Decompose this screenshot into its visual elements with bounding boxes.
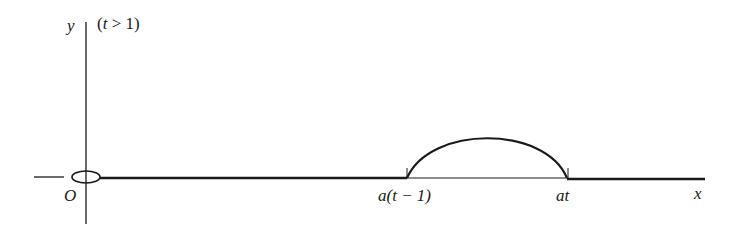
pulse-arc [407, 138, 567, 178]
condition-label: (t > 1) [97, 14, 140, 34]
point-left-label: a(t − 1) [378, 186, 431, 206]
y-axis-label: y [67, 16, 75, 36]
x-axis-label: x [694, 184, 702, 204]
point-right-label: at [556, 186, 569, 206]
origin-label: O [64, 186, 76, 206]
diagram-canvas [0, 0, 740, 230]
